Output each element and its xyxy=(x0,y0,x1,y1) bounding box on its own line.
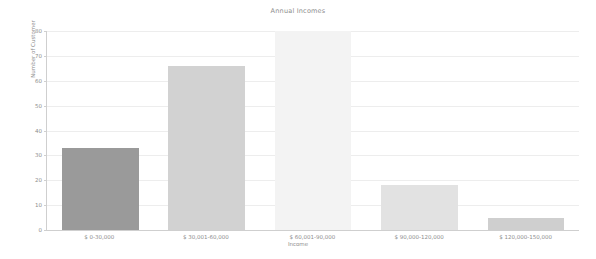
y-tick-label: 80 xyxy=(35,28,42,34)
y-tick-label: 50 xyxy=(35,103,42,109)
x-tick-label: $ 30,001-60,000 xyxy=(153,234,260,240)
plot-area: 01020304050607080 xyxy=(46,31,579,231)
y-tick-label: 20 xyxy=(35,177,42,183)
bar-slot xyxy=(153,31,259,230)
bar-slot xyxy=(260,31,366,230)
x-tick-label: $ 90,000-120,000 xyxy=(366,234,473,240)
x-tick-label: $ 120,000-150,000 xyxy=(472,234,579,240)
x-axis-tick-labels: $ 0-30,000$ 30,001-60,000$ 60,001-90,000… xyxy=(46,234,579,240)
x-tick-label: $ 60,001-90,000 xyxy=(259,234,366,240)
y-tick-label: 30 xyxy=(35,152,42,158)
chart-title: Annual Incomes xyxy=(0,7,596,15)
y-tick-mark xyxy=(44,230,47,231)
bar-chart: Annual Incomes 01020304050607080 Number … xyxy=(0,0,596,259)
y-tick-label: 0 xyxy=(39,227,43,233)
bar[interactable] xyxy=(488,218,565,230)
bar-slot xyxy=(473,31,579,230)
x-tick-label: $ 0-30,000 xyxy=(46,234,153,240)
y-axis-label: Number of Customer xyxy=(30,0,36,104)
y-tick-label: 40 xyxy=(35,128,42,134)
y-tick-label: 10 xyxy=(35,202,42,208)
bar[interactable] xyxy=(62,148,139,230)
bar-slot xyxy=(47,31,153,230)
bar[interactable] xyxy=(381,185,458,230)
x-axis-label: Income xyxy=(0,241,596,247)
bar[interactable] xyxy=(275,31,352,230)
y-tick-label: 60 xyxy=(35,78,42,84)
bars-container xyxy=(47,31,579,230)
bar[interactable] xyxy=(168,66,245,230)
y-tick-label: 70 xyxy=(35,53,42,59)
bar-slot xyxy=(366,31,472,230)
